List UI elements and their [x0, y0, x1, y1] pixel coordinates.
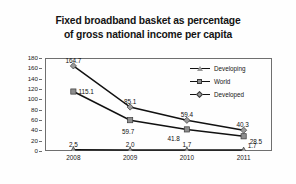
y-tick-mark	[39, 110, 42, 111]
y-tick-label: 80	[31, 107, 38, 113]
y-tick-mark	[39, 151, 42, 152]
y-tick-label: 160	[28, 65, 38, 71]
y-tick-label: 0	[35, 148, 38, 154]
data-point-marker	[184, 147, 190, 151]
x-tick-label: 2010	[180, 154, 194, 161]
chart-title-line-2: of gross national income per capita	[0, 28, 296, 42]
legend-item-developed[interactable]: Developed	[190, 89, 268, 100]
legend-label: World	[214, 78, 230, 85]
y-tick-label: 120	[28, 86, 38, 92]
y-tick-label: 180	[28, 55, 38, 61]
data-point-marker	[184, 117, 190, 123]
data-point-marker	[127, 147, 133, 151]
chart-title-line-1: Fixed broadband basket as percentage	[0, 14, 296, 28]
y-tick-mark	[39, 141, 42, 142]
x-axis: 2008200920102011	[45, 154, 272, 166]
legend-label: Developing	[214, 65, 246, 72]
y-tick-label: 40	[31, 127, 38, 133]
data-point-marker	[128, 118, 133, 123]
y-tick-mark	[39, 58, 42, 59]
legend-item-developing[interactable]: Developing	[190, 63, 268, 74]
data-point-marker	[241, 134, 246, 139]
y-tick-mark	[39, 120, 42, 121]
y-axis: 180160140120100806040200	[14, 58, 42, 151]
y-tick-label: 140	[28, 76, 38, 82]
y-tick-mark	[39, 68, 42, 69]
y-tick-mark	[39, 99, 42, 100]
legend-label: Developed	[214, 91, 244, 98]
data-point-marker	[184, 127, 189, 132]
y-tick-mark	[39, 79, 42, 80]
chart-title: Fixed broadband basket as percentage of …	[0, 14, 296, 41]
series-developing	[70, 147, 246, 151]
y-tick-label: 20	[31, 138, 38, 144]
legend-marker-icon	[190, 64, 210, 73]
x-tick-label: 2011	[237, 154, 251, 161]
legend-marker-icon	[190, 90, 210, 99]
data-point-marker	[241, 147, 247, 151]
y-tick-mark	[39, 89, 42, 90]
x-tick-label: 2009	[123, 154, 137, 161]
data-point-marker	[241, 127, 247, 133]
chart-canvas: Fixed broadband basket as percentage of …	[0, 0, 296, 184]
chart-legend: DevelopingWorldDeveloped	[190, 63, 268, 102]
y-tick-label: 60	[31, 117, 38, 123]
legend-marker-icon	[190, 77, 210, 86]
data-point-marker	[70, 147, 76, 151]
x-tick-label: 2008	[66, 154, 80, 161]
legend-item-world[interactable]: World	[190, 76, 268, 87]
y-tick-label: 100	[28, 96, 38, 102]
data-point-marker	[71, 89, 76, 94]
y-tick-mark	[39, 130, 42, 131]
